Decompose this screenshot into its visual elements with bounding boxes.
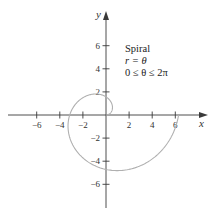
x-tick-label: −4 — [55, 120, 65, 130]
x-tick-label: 2 — [127, 120, 132, 130]
y-tick-label: −2 — [90, 133, 100, 143]
y-tick-label: 2 — [96, 87, 101, 97]
spiral-curve — [68, 94, 179, 171]
x-tick-label: −2 — [78, 120, 88, 130]
axes — [8, 11, 208, 208]
x-tick-label: 4 — [150, 120, 155, 130]
x-tick-label: −6 — [32, 120, 42, 130]
y-tick-label: −6 — [90, 179, 100, 189]
x-axis-label: x — [198, 117, 204, 129]
y-tick-label: 6 — [96, 41, 101, 51]
annotation-equation: r = θ — [125, 55, 147, 66]
y-axis-arrow-icon — [103, 11, 109, 20]
annotation-title: Spiral — [125, 43, 150, 54]
annotation-range: 0 ≤ θ ≤ 2π — [125, 67, 169, 78]
y-tick-label: 4 — [96, 64, 101, 74]
spiral-chart: −6−4−2246−6−4−2246 x y Spiral r = θ 0 ≤ … — [0, 0, 212, 215]
y-axis-label: y — [95, 8, 101, 20]
annotation-block: Spiral r = θ 0 ≤ θ ≤ 2π — [125, 43, 169, 78]
